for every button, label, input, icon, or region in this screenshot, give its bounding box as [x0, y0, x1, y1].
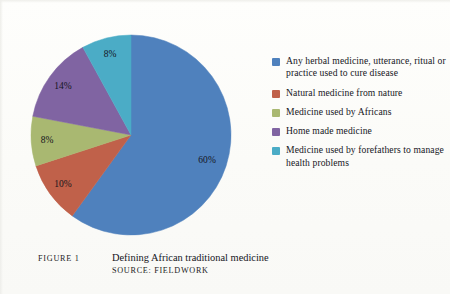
- legend-swatch-icon: [272, 109, 280, 117]
- legend-swatch-icon: [272, 128, 280, 136]
- pie-slice-value-label: 8%: [104, 49, 117, 59]
- legend-swatch-icon: [272, 90, 280, 98]
- legend: Any herbal medicine, utterance, ritual o…: [272, 55, 448, 176]
- legend-swatch-icon: [272, 58, 280, 66]
- legend-swatch-icon: [272, 147, 280, 155]
- legend-item-home-made-medicine[interactable]: Home made medicine: [272, 125, 448, 137]
- pie-slice-value-label: 8%: [41, 135, 54, 145]
- pie-chart-svg: 60%10%8%14%8%: [28, 32, 234, 238]
- legend-item-label: Home made medicine: [286, 125, 372, 137]
- figure-title-text: Defining African traditional medicine: [112, 252, 269, 263]
- pie-slice-value-label: 14%: [54, 81, 72, 91]
- legend-item-natural-medicine[interactable]: Natural medicine from nature: [272, 87, 448, 99]
- legend-item-medicine-used-by-forefathers[interactable]: Medicine used by forefathers to manage h…: [272, 144, 448, 169]
- legend-item-label: Medicine used by Africans: [286, 106, 392, 118]
- pie-chart: 60%10%8%14%8%: [28, 32, 234, 238]
- legend-item-medicine-used-by-africans[interactable]: Medicine used by Africans: [272, 106, 448, 118]
- figure-source-text: Source: Fieldwork: [112, 266, 450, 275]
- figure-caption: Figure 1 Defining African traditional me…: [0, 252, 450, 275]
- legend-item-label: Medicine used by forefathers to manage h…: [286, 144, 448, 169]
- pie-slice-value-label: 10%: [54, 179, 72, 189]
- legend-item-label: Any herbal medicine, utterance, ritual o…: [286, 55, 448, 80]
- pie-slice-value-label: 60%: [198, 155, 216, 165]
- legend-item-label: Natural medicine from nature: [286, 87, 402, 99]
- legend-item-any-herbal-medicine[interactable]: Any herbal medicine, utterance, ritual o…: [272, 55, 448, 80]
- figure-number-label: Figure 1: [38, 254, 112, 263]
- figure-area: 60%10%8%14%8% Any herbal medicine, utter…: [0, 0, 450, 246]
- pie-slice-group: [31, 35, 231, 235]
- caption-title-line: Figure 1 Defining African traditional me…: [0, 252, 450, 263]
